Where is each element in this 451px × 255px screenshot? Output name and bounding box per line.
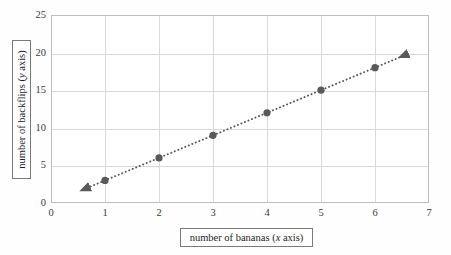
gridline-vertical (105, 16, 106, 202)
gridline-horizontal (52, 166, 428, 167)
gridline-vertical (159, 16, 160, 202)
gridline-horizontal (52, 91, 428, 92)
x-tick-label: 3 (202, 207, 224, 218)
y-axis-title-head: number of backflips ( (16, 78, 27, 169)
gridline-vertical (321, 16, 322, 202)
gridline-vertical (267, 16, 268, 202)
y-tick-label: 25 (24, 9, 46, 20)
x-tick-label: 1 (94, 207, 116, 218)
x-tick-label: 0 (40, 207, 62, 218)
x-axis-title-text: number of bananas (x axis) (190, 232, 304, 243)
x-axis-title: number of bananas (x axis) (180, 228, 313, 247)
y-axis-title-text: number of backflips (y axis) (16, 50, 27, 168)
y-axis-title-tail: axis) (16, 50, 27, 73)
gridline-horizontal (52, 54, 428, 55)
plot-area (51, 15, 429, 203)
x-tick-label: 6 (364, 207, 386, 218)
chart-figure: 25 20 15 10 5 0 0 1 2 3 4 5 6 7 number o… (0, 0, 451, 255)
y-axis-title-italic: y (16, 73, 27, 78)
x-tick-label: 4 (256, 207, 278, 218)
x-tick-label: 7 (418, 207, 440, 218)
x-tick-label: 2 (148, 207, 170, 218)
x-axis-title-head: number of bananas ( (190, 232, 276, 243)
x-tick-label: 5 (310, 207, 332, 218)
x-axis-title-tail: axis) (280, 232, 303, 243)
gridline-vertical (375, 16, 376, 202)
y-axis-title: number of backflips (y axis) (12, 40, 31, 179)
gridline-vertical (213, 16, 214, 202)
gridline-horizontal (52, 129, 428, 130)
